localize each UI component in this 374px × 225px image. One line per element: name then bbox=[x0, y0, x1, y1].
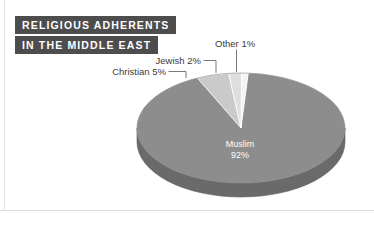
leader-line-jewish bbox=[204, 61, 217, 74]
pie-slices bbox=[137, 73, 345, 183]
pie-chart: Christian 5% Jewish 2% Other 1% Muslim 9… bbox=[0, 0, 374, 225]
inner-label-name: Muslim bbox=[226, 139, 255, 149]
callout-christian: Christian 5% bbox=[112, 66, 166, 77]
callout-other: Other 1% bbox=[215, 38, 256, 49]
leader-line-christian bbox=[169, 72, 187, 79]
inner-label-percent: 92% bbox=[231, 150, 249, 160]
chart-figure: RELIGIOUS ADHERENTS IN THE MIDDLE EAST C… bbox=[0, 0, 374, 225]
callout-jewish: Jewish 2% bbox=[156, 55, 202, 66]
